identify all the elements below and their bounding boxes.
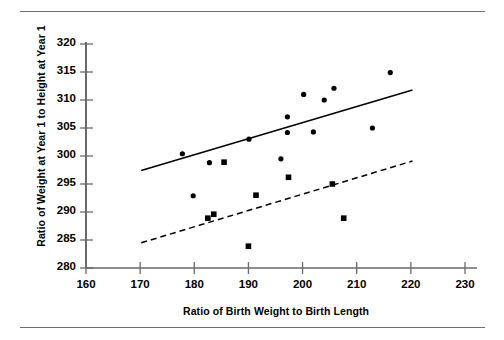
data-point-circle [285, 130, 290, 135]
y-tick-label: 290 [38, 204, 76, 216]
x-tick-label: 220 [391, 278, 431, 290]
data-point-square [330, 181, 336, 187]
y-tick-label: 300 [38, 148, 76, 160]
data-point-square [246, 243, 252, 249]
x-tick-label: 160 [66, 278, 106, 290]
y-tick-label: 315 [38, 64, 76, 76]
data-point-circle [301, 92, 306, 97]
data-point-circle [370, 125, 375, 130]
data-point-circle [285, 114, 290, 119]
y-tick-label: 305 [38, 120, 76, 132]
data-point-circle [388, 70, 393, 75]
y-tick-label: 285 [38, 232, 76, 244]
x-tick-label: 210 [337, 278, 377, 290]
data-point-circle [180, 151, 185, 156]
data-point-square [286, 174, 292, 180]
y-tick-label: 280 [38, 260, 76, 272]
x-tick-label: 200 [283, 278, 323, 290]
y-tick-label: 320 [38, 36, 76, 48]
figure-container: Ratio of Weight at Year 1 to Height at Y… [0, 0, 504, 340]
data-point-circle [246, 137, 251, 142]
data-point-circle [311, 129, 316, 134]
data-point-square [341, 215, 347, 221]
dashed-trend-line [141, 161, 412, 243]
data-point-circle [191, 193, 196, 198]
x-tick-label: 170 [120, 278, 160, 290]
data-point-circle [322, 97, 327, 102]
data-point-square [221, 159, 227, 165]
data-point-square [211, 211, 217, 217]
data-point-circle [207, 160, 212, 165]
data-point-circle [331, 86, 336, 91]
y-tick-label: 310 [38, 92, 76, 104]
x-tick-label: 230 [445, 278, 485, 290]
x-tick-label: 180 [174, 278, 214, 290]
data-point-circle [278, 156, 283, 161]
data-point-square [205, 215, 211, 221]
data-point-square [253, 192, 259, 198]
x-tick-label: 190 [228, 278, 268, 290]
y-tick-label: 295 [38, 176, 76, 188]
